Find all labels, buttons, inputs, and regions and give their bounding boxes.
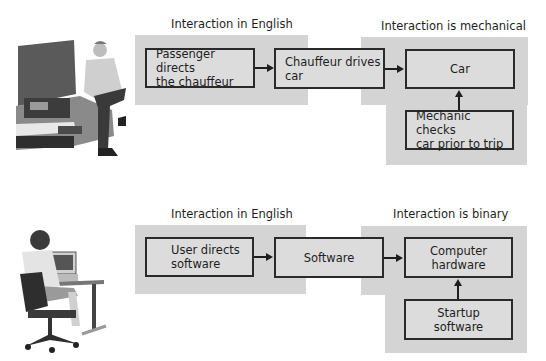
software-box: Software xyxy=(274,237,384,278)
arrow-icon xyxy=(385,63,405,75)
car-box-text: Car xyxy=(450,62,470,76)
english-interaction-label: Interaction in English xyxy=(171,17,293,31)
startup-software-box-text: Startup software xyxy=(434,306,483,334)
computer-hardware-box: Computer hardware xyxy=(404,237,513,278)
chauffeur-box: Chauffeur drives car xyxy=(274,48,385,89)
arrow-icon xyxy=(384,252,404,264)
computer-hardware-box-text: Computer hardware xyxy=(430,244,487,272)
user-box: User directs software xyxy=(145,237,254,277)
passenger-box-text: Passenger directs the chauffeur xyxy=(156,47,253,89)
arrow-icon xyxy=(255,62,275,74)
binary-interaction-label: Interaction is binary xyxy=(393,207,508,221)
woman-at-computer-illustration xyxy=(14,226,108,354)
arrow-up-icon xyxy=(452,278,464,299)
arrow-up-icon xyxy=(453,89,465,110)
arrow-icon xyxy=(254,251,274,263)
mechanic-box: Mechanic checks car prior to trip xyxy=(405,110,514,150)
man-sitting-on-car-illustration xyxy=(14,36,126,160)
software-box-text: Software xyxy=(304,251,355,265)
english-interaction-label: Interaction in English xyxy=(171,207,293,221)
mechanical-interaction-label: Interaction is mechanical xyxy=(381,19,526,33)
chauffeur-box-text: Chauffeur drives car xyxy=(285,55,380,83)
mechanic-box-text: Mechanic checks car prior to trip xyxy=(416,109,512,151)
startup-software-box: Startup software xyxy=(404,299,513,340)
passenger-box: Passenger directs the chauffeur xyxy=(145,48,255,88)
car-box: Car xyxy=(405,49,515,89)
user-box-text: User directs software xyxy=(171,243,240,271)
